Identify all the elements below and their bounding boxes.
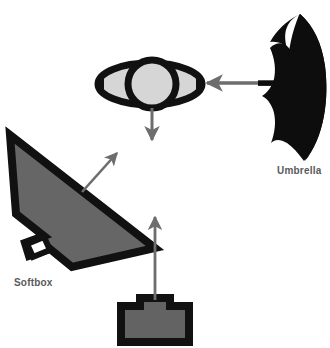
eye-lens-subject[interactable] bbox=[98, 60, 202, 108]
softbox-arrow bbox=[82, 153, 117, 192]
softbox-mount-tab-icon bbox=[27, 237, 50, 257]
umbrella-arrow bbox=[207, 80, 282, 86]
label-softbox: Softbox bbox=[14, 277, 53, 288]
lighting-diagram-canvas: Umbrella Softbox bbox=[0, 0, 330, 348]
label-umbrella: Umbrella bbox=[277, 165, 321, 176]
flash-head-icon bbox=[121, 298, 189, 342]
flash-strobe-unit[interactable] bbox=[121, 298, 189, 342]
softbox-light[interactable] bbox=[10, 135, 155, 267]
eye-iris-circle bbox=[128, 60, 176, 108]
umbrella-light[interactable] bbox=[262, 14, 326, 161]
